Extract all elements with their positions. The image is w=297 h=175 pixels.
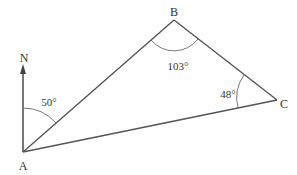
angle-arc-a	[23, 108, 56, 123]
angle-label-b: 103°	[168, 60, 189, 72]
vertex-label-a: A	[19, 159, 28, 173]
diagram-canvas: N A B C 50° 103° 48°	[0, 0, 297, 175]
angle-label-c: 48°	[220, 88, 235, 100]
north-arrow-icon	[20, 64, 26, 74]
vertex-label-b: B	[170, 5, 178, 19]
angle-arc-c	[237, 75, 244, 108]
side-ac	[23, 100, 277, 152]
angle-arc-b	[151, 39, 198, 51]
angle-label-a: 50°	[41, 96, 56, 108]
bearing-diagram: N A B C 50° 103° 48°	[0, 0, 297, 175]
vertex-label-c: C	[280, 97, 288, 111]
north-label: N	[20, 51, 29, 65]
